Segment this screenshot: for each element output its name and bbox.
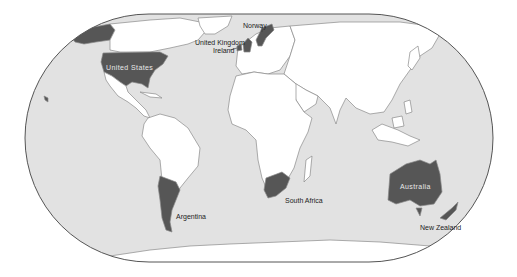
label-ireland: Ireland — [213, 47, 234, 55]
label-new-zealand: New Zealand — [420, 224, 461, 232]
borneo — [392, 116, 404, 128]
label-australia: Australia — [400, 183, 431, 191]
label-argentina: Argentina — [176, 213, 206, 221]
world-map — [0, 0, 517, 277]
label-norway: Norway — [243, 22, 267, 30]
label-united-states: United States — [106, 64, 153, 72]
label-south-africa: South Africa — [285, 197, 323, 205]
label-united-kingdom: United Kingdom — [195, 39, 245, 47]
